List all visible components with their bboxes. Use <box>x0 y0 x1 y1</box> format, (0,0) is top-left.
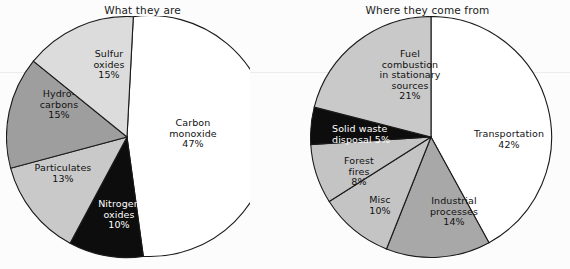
slice-label-solid-waste-disposal: Solid waste disposal 5% <box>332 124 410 145</box>
chart-title-left: What they are <box>0 4 285 16</box>
slice-label-transportation: Transportation 42% <box>459 129 559 150</box>
slice-label-misc: Misc 10% <box>357 195 403 216</box>
slice-label-hydrocarbons: Hydro- carbons 15% <box>23 89 95 121</box>
slice-label-fuel-combustion: Fuel combustion in stationary sources 21… <box>368 49 452 102</box>
slice-label-forest-fires: Forest fires 8% <box>334 156 384 188</box>
chart-panel-what-they-are: What they are Carbon <box>0 0 285 269</box>
pie-chart-figure: What they are Carbon <box>0 0 570 269</box>
slice-label-nitrogen-oxides: Nitrogen oxides 10% <box>81 199 157 231</box>
slice-label-sulfur-oxides: Sulfur oxides 15% <box>76 49 142 81</box>
slice-label-carbon-monoxide: Carbon monoxide 47% <box>151 118 235 150</box>
chart-title-right: Where they come from <box>285 4 570 16</box>
chart-panel-where-they-come-from: Where they come from <box>285 0 570 269</box>
slice-label-industrial-processes: Industrial processes 14% <box>413 196 495 228</box>
slice-label-particulates: Particulates 13% <box>18 163 108 184</box>
